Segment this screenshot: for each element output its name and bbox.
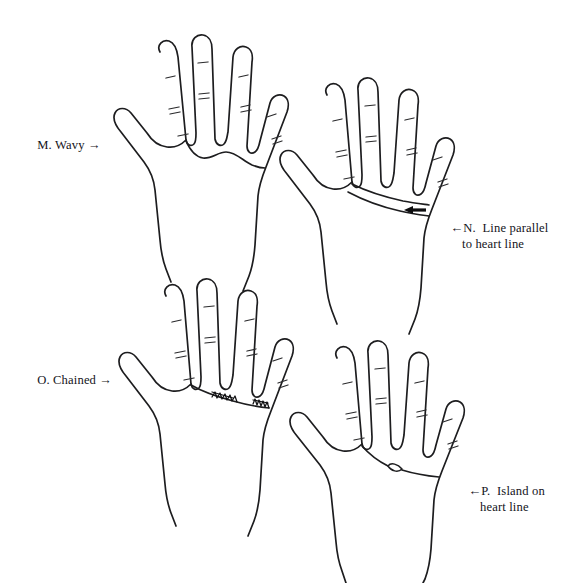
caption-m-text: M. Wavy → — [37, 138, 100, 152]
finger-creases-n — [333, 105, 448, 187]
caption-p-arrow-icon: ← — [468, 483, 481, 498]
caption-n-line-2: to heart line — [437, 236, 548, 253]
hand-panel-m — [114, 35, 288, 291]
caption-m: M. Wavy → — [24, 120, 101, 170]
hand-outline-p — [290, 341, 464, 583]
heart-line-wavy-m — [186, 141, 265, 168]
hand-panel-p — [290, 341, 464, 583]
heart-line-p-right-segment — [402, 470, 439, 477]
hand-panel-o — [119, 279, 293, 536]
finger-creases-m — [166, 62, 282, 144]
caption-p: ←P. Island onheart line — [455, 466, 545, 549]
palmistry-figure: M. Wavy → O. Chained → ←N. Line parallel… — [0, 0, 567, 583]
finger-creases-p — [343, 368, 458, 449]
caption-p-line-2: heart line — [455, 499, 545, 516]
parallel-line-arrow-shaft-icon — [412, 208, 426, 211]
caption-n: ←N. Line parallelto heart line — [437, 203, 548, 286]
caption-o: O. Chained → — [24, 355, 112, 405]
caption-n-arrow-icon: ← — [450, 220, 463, 235]
hand-outline-m — [114, 35, 288, 291]
island-shape-p — [388, 464, 402, 471]
hand-outline-n — [280, 78, 454, 334]
caption-o-text: O. Chained → — [37, 373, 112, 387]
caption-p-line-1: P. Island on — [481, 484, 545, 498]
caption-n-line-1: N. Line parallel — [463, 221, 548, 235]
heart-line-p-left-segment — [362, 446, 388, 466]
finger-creases-o — [172, 306, 288, 388]
hand-panel-n — [280, 78, 454, 334]
